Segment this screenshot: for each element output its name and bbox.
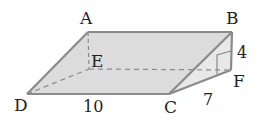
- measure-bf: 4: [237, 43, 247, 62]
- label-f: F: [233, 71, 245, 91]
- label-e: E: [91, 51, 103, 71]
- label-b: B: [226, 8, 239, 28]
- label-d: D: [14, 95, 28, 115]
- label-c: C: [164, 97, 177, 117]
- edge-bf: [231, 32, 232, 70]
- measure-dc: 10: [83, 97, 103, 116]
- label-a: A: [79, 8, 93, 28]
- prism-diagram: A B E D C F 10 4 7: [0, 0, 259, 128]
- measure-cf: 7: [203, 90, 213, 109]
